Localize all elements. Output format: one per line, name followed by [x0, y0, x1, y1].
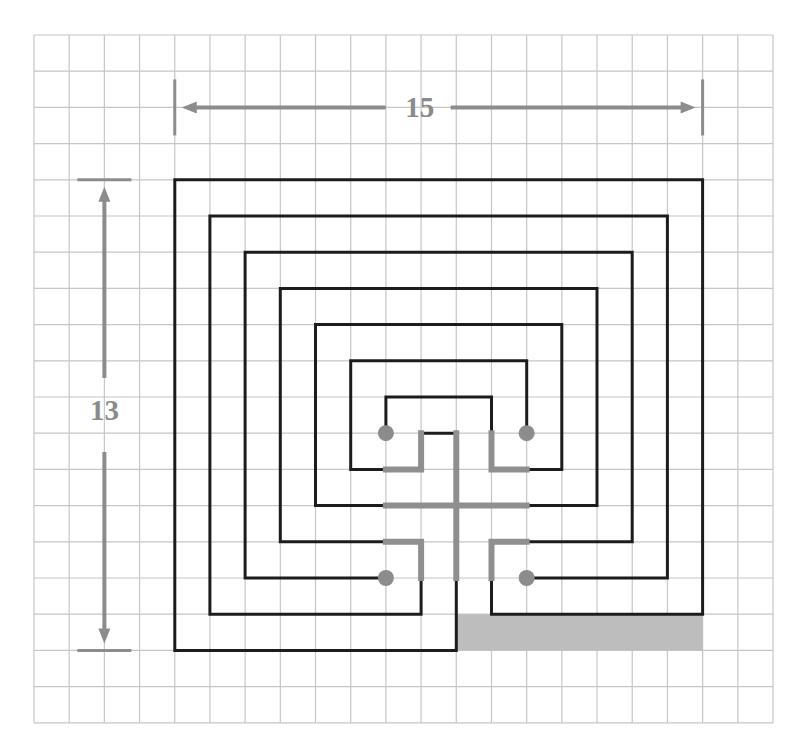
width-dimension-label: 15 — [405, 91, 434, 123]
seed-dot — [378, 425, 394, 441]
entrance-shaded-region — [456, 614, 702, 650]
seed-dot — [519, 570, 535, 586]
shaded-rectangle — [456, 614, 702, 650]
labyrinth-diagram: 15 13 — [0, 0, 807, 750]
seed-dot — [519, 425, 535, 441]
seed-dot — [378, 570, 394, 586]
height-dimension-label: 13 — [90, 394, 119, 426]
